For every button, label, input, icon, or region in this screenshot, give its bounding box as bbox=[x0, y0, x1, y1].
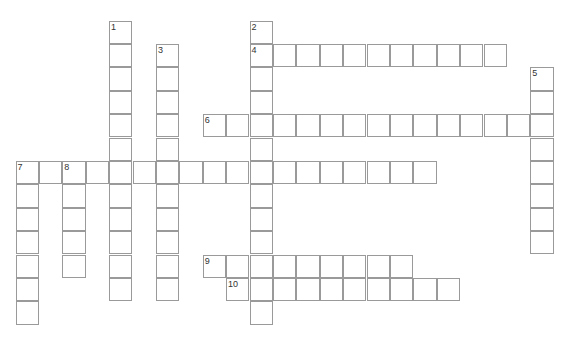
crossword-cell[interactable] bbox=[156, 255, 179, 278]
crossword-cell[interactable] bbox=[460, 44, 483, 67]
crossword-cell[interactable] bbox=[437, 114, 460, 137]
crossword-cell[interactable] bbox=[273, 161, 296, 184]
crossword-cell[interactable] bbox=[250, 278, 273, 301]
crossword-cell[interactable] bbox=[437, 278, 460, 301]
crossword-cell[interactable] bbox=[530, 91, 553, 114]
crossword-cell[interactable] bbox=[156, 161, 179, 184]
crossword-cell[interactable] bbox=[156, 138, 179, 161]
crossword-cell[interactable] bbox=[250, 255, 273, 278]
crossword-cell[interactable] bbox=[109, 114, 132, 137]
crossword-cell[interactable]: 6 bbox=[203, 114, 226, 137]
crossword-cell[interactable] bbox=[250, 208, 273, 231]
crossword-cell[interactable] bbox=[16, 301, 39, 324]
crossword-cell[interactable] bbox=[507, 114, 530, 137]
crossword-cell[interactable] bbox=[250, 301, 273, 324]
crossword-cell[interactable] bbox=[530, 138, 553, 161]
crossword-cell[interactable] bbox=[367, 114, 390, 137]
crossword-cell[interactable] bbox=[413, 114, 436, 137]
crossword-cell[interactable] bbox=[530, 231, 553, 254]
crossword-cell[interactable] bbox=[156, 184, 179, 207]
crossword-cell[interactable] bbox=[343, 114, 366, 137]
crossword-cell[interactable] bbox=[320, 255, 343, 278]
crossword-cell[interactable] bbox=[367, 278, 390, 301]
crossword-cell[interactable]: 5 bbox=[530, 67, 553, 90]
crossword-cell[interactable] bbox=[530, 161, 553, 184]
crossword-cell[interactable] bbox=[390, 255, 413, 278]
crossword-cell[interactable] bbox=[530, 208, 553, 231]
crossword-cell[interactable] bbox=[320, 161, 343, 184]
crossword-cell[interactable] bbox=[109, 231, 132, 254]
crossword-cell[interactable] bbox=[16, 255, 39, 278]
crossword-cell[interactable]: 1 bbox=[109, 21, 132, 44]
crossword-cell[interactable] bbox=[484, 44, 507, 67]
crossword-cell[interactable] bbox=[226, 161, 249, 184]
crossword-cell[interactable] bbox=[296, 44, 319, 67]
crossword-cell[interactable] bbox=[156, 91, 179, 114]
crossword-cell[interactable] bbox=[62, 231, 85, 254]
crossword-cell[interactable]: 8 bbox=[62, 161, 85, 184]
crossword-cell[interactable] bbox=[109, 208, 132, 231]
crossword-cell[interactable] bbox=[250, 184, 273, 207]
crossword-cell[interactable] bbox=[250, 161, 273, 184]
crossword-cell[interactable] bbox=[179, 161, 202, 184]
crossword-cell[interactable] bbox=[156, 208, 179, 231]
crossword-cell[interactable]: 10 bbox=[226, 278, 249, 301]
crossword-cell[interactable] bbox=[296, 278, 319, 301]
crossword-cell[interactable] bbox=[390, 114, 413, 137]
crossword-cell[interactable] bbox=[320, 44, 343, 67]
crossword-cell[interactable] bbox=[273, 255, 296, 278]
crossword-cell[interactable] bbox=[296, 255, 319, 278]
crossword-cell[interactable] bbox=[320, 278, 343, 301]
crossword-cell[interactable] bbox=[250, 91, 273, 114]
crossword-cell[interactable] bbox=[109, 255, 132, 278]
crossword-cell[interactable] bbox=[109, 91, 132, 114]
crossword-cell[interactable] bbox=[413, 161, 436, 184]
crossword-cell[interactable] bbox=[156, 278, 179, 301]
crossword-cell[interactable] bbox=[484, 114, 507, 137]
crossword-cell[interactable] bbox=[460, 114, 483, 137]
crossword-cell[interactable] bbox=[343, 44, 366, 67]
crossword-cell[interactable] bbox=[367, 161, 390, 184]
crossword-cell[interactable] bbox=[343, 161, 366, 184]
crossword-cell[interactable]: 2 bbox=[250, 21, 273, 44]
crossword-cell[interactable] bbox=[367, 44, 390, 67]
crossword-cell[interactable] bbox=[296, 114, 319, 137]
crossword-cell[interactable] bbox=[109, 44, 132, 67]
crossword-cell[interactable] bbox=[437, 44, 460, 67]
crossword-cell[interactable] bbox=[273, 114, 296, 137]
crossword-cell[interactable] bbox=[16, 231, 39, 254]
crossword-cell[interactable] bbox=[343, 278, 366, 301]
crossword-cell[interactable] bbox=[156, 231, 179, 254]
crossword-cell[interactable] bbox=[109, 138, 132, 161]
crossword-cell[interactable] bbox=[16, 278, 39, 301]
crossword-cell[interactable] bbox=[413, 278, 436, 301]
crossword-cell[interactable] bbox=[273, 278, 296, 301]
crossword-cell[interactable] bbox=[250, 138, 273, 161]
crossword-cell[interactable] bbox=[250, 114, 273, 137]
crossword-cell[interactable] bbox=[109, 161, 132, 184]
crossword-cell[interactable] bbox=[226, 114, 249, 137]
crossword-cell[interactable] bbox=[156, 114, 179, 137]
crossword-cell[interactable] bbox=[226, 255, 249, 278]
crossword-cell[interactable] bbox=[320, 114, 343, 137]
crossword-cell[interactable] bbox=[530, 184, 553, 207]
crossword-cell[interactable] bbox=[367, 255, 390, 278]
crossword-cell[interactable]: 9 bbox=[203, 255, 226, 278]
crossword-cell[interactable] bbox=[156, 67, 179, 90]
crossword-cell[interactable] bbox=[250, 231, 273, 254]
crossword-cell[interactable]: 3 bbox=[156, 44, 179, 67]
crossword-cell[interactable] bbox=[296, 161, 319, 184]
crossword-cell[interactable] bbox=[390, 44, 413, 67]
crossword-cell[interactable] bbox=[16, 184, 39, 207]
crossword-cell[interactable] bbox=[109, 184, 132, 207]
crossword-cell[interactable] bbox=[343, 255, 366, 278]
crossword-cell[interactable] bbox=[390, 278, 413, 301]
crossword-cell[interactable]: 4 bbox=[250, 44, 273, 67]
crossword-cell[interactable] bbox=[413, 44, 436, 67]
crossword-cell[interactable] bbox=[109, 67, 132, 90]
crossword-cell[interactable] bbox=[109, 278, 132, 301]
crossword-cell[interactable] bbox=[390, 161, 413, 184]
crossword-cell[interactable]: 7 bbox=[16, 161, 39, 184]
crossword-cell[interactable] bbox=[133, 161, 156, 184]
crossword-cell[interactable] bbox=[273, 44, 296, 67]
